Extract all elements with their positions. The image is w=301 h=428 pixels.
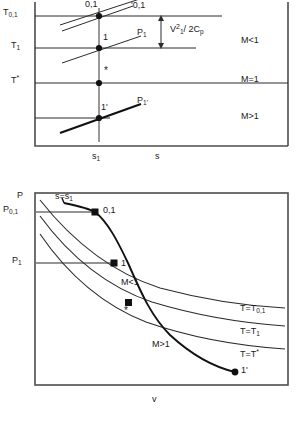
ts-label-isobar-P1-prime: P1' [137, 96, 148, 105]
ts-label-state-01: 0,1 [85, 0, 98, 9]
isentropic-curve [64, 203, 235, 372]
pv-label-state-star: * [124, 306, 128, 316]
pv-label-state-1-prime: 1' [241, 366, 248, 375]
ts-point-state-star [96, 80, 102, 86]
pv-label-isotherm-T01: T=T0,1 [240, 304, 265, 313]
pv-ytick-P01: P0,1 [3, 205, 18, 214]
pv-diagram-panel: P v P0,1 P1 s=s1 0,1 1 * 1' T=T0,1 T=T1 … [0, 180, 301, 428]
pv-point-state-1-prime [232, 369, 239, 376]
thermodynamic-figure: T0,1 T1 T* s1 s 0,1 1 * 1' '0,1 P1 P1' V… [0, 0, 301, 428]
pv-label-state-01: 0,1 [103, 206, 116, 215]
ts-ytick-Tstar: T* [11, 76, 19, 85]
ts-annotation-mach-subsonic: M<1 [241, 36, 259, 45]
ts-point-state-01 [96, 13, 102, 19]
pv-point-state-1 [111, 260, 118, 267]
ts-xtick-s1: s1 [92, 152, 100, 161]
ts-diagram-panel: T0,1 T1 T* s1 s 0,1 1 * 1' '0,1 P1 P1' V… [0, 0, 301, 180]
pv-annotation-mach-subsonic: M<1 [121, 278, 139, 287]
ts-ytick-T01: T0,1 [3, 8, 18, 17]
ts-label-state-star: * [104, 66, 108, 76]
ts-label-isobar-P1: P1 [137, 28, 147, 37]
ts-point-state-1-prime [96, 115, 102, 121]
pv-yaxis-name: P [17, 191, 23, 200]
isotherm-curve-T01 [40, 200, 285, 308]
ts-diagram-graphics [0, 0, 301, 180]
pv-point-state-01 [92, 209, 99, 216]
pv-label-isentrope: s=s1 [55, 192, 73, 201]
pv-label-isotherm-T1: T=T1 [240, 327, 260, 336]
ts-label-isobar-P01-prime: '0,1 [131, 1, 145, 10]
ts-annotation-kinetic-energy: V21/ 2Cp [170, 25, 204, 34]
ts-ytick-T1: T1 [11, 41, 20, 50]
pv-annotation-mach-supersonic: M>1 [152, 340, 170, 349]
ts-annotation-mach-supersonic: M>1 [241, 112, 259, 121]
ts-xaxis-name: s [155, 152, 160, 161]
ts-label-state-1-prime: 1' [101, 103, 108, 112]
pv-xaxis-name: v [152, 395, 157, 404]
ts-label-state-1: 1 [103, 33, 108, 42]
ts-point-state-1 [96, 45, 102, 51]
pv-label-isotherm-Tstar: T=T* [240, 350, 259, 359]
pv-label-state-1: 1 [121, 259, 126, 268]
pv-ytick-P1: P1 [12, 256, 22, 265]
ts-annotation-mach-sonic: M=1 [241, 75, 259, 84]
